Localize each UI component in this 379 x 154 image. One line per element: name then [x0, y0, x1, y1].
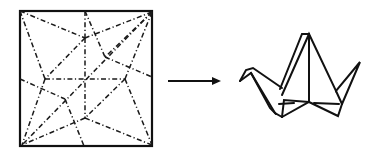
fold-line [125, 12, 152, 79]
fold-line [20, 79, 65, 99]
folded-paper-crane [240, 34, 360, 117]
crane-outline-stroke [336, 91, 342, 104]
fold-line [85, 79, 125, 118]
crane-outline-stroke [240, 68, 282, 88]
crane-outline-stroke [279, 103, 294, 104]
crane-outline-stroke [314, 103, 339, 104]
crease-pattern-square [20, 11, 152, 146]
fold-line [105, 57, 152, 77]
crane-outline-stroke [282, 34, 360, 104]
arrow-head [212, 77, 221, 85]
fold-line [20, 11, 45, 79]
fold-line [85, 11, 105, 57]
fold-line [20, 11, 85, 38]
fold-line [22, 118, 85, 145]
fold-line [45, 38, 85, 79]
dash-dot-fold-lines [20, 11, 152, 146]
fold-line [105, 12, 152, 57]
crane-outline-stroke [240, 73, 282, 117]
right-arrow-icon [168, 77, 221, 85]
origami-crane-diagram [0, 0, 379, 154]
